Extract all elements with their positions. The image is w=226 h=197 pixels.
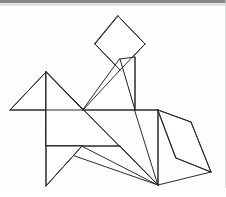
- tangram-piece-group: [10, 16, 211, 186]
- tangram-horse-diagram: [0, 0, 226, 197]
- tangram-edge-tail-lower-join: [158, 172, 211, 185]
- bottom-margin: [0, 188, 226, 197]
- figure-canvas: [0, 0, 226, 197]
- tangram-piece-rear-haunch-triangle: [82, 146, 158, 185]
